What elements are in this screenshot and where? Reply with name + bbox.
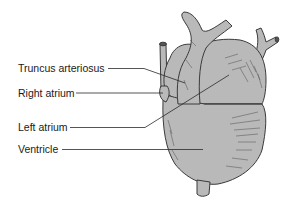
label-ventricle: Ventricle: [18, 143, 58, 155]
ventricle-body: [163, 95, 266, 184]
vessel-bottom: [197, 180, 210, 196]
heart-illustration: [0, 0, 298, 206]
label-truncus-arteriosus: Truncus arteriosus: [18, 62, 105, 74]
right-atrium-bulge: [160, 86, 170, 102]
label-left-atrium: Left atrium: [18, 121, 68, 133]
label-right-atrium: Right atrium: [18, 87, 75, 99]
heart-diagram: Truncus arteriosus Right atrium Left atr…: [0, 0, 298, 206]
